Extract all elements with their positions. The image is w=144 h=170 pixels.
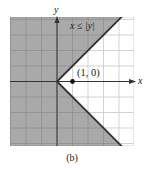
inequality-label: x ≤ |y| (69, 20, 95, 31)
x-axis-label: x (137, 75, 143, 86)
region-graph: x y (1, 0) x ≤ |y| (b) (0, 0, 144, 170)
point-label: (1, 0) (77, 67, 100, 79)
test-point (70, 79, 75, 84)
figure-caption: (b) (66, 152, 78, 164)
y-axis-label: y (53, 4, 59, 15)
